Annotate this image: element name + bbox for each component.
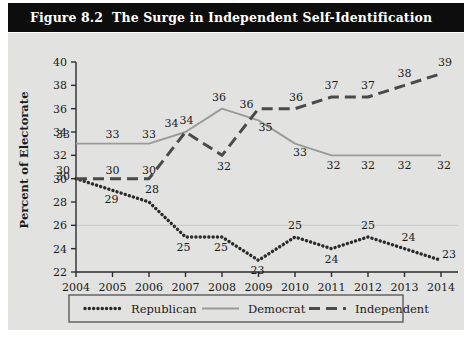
data-point-label: 33 (56, 128, 70, 141)
data-point-label: 36 (212, 91, 226, 104)
data-point-label: 39 (438, 56, 452, 69)
x-tick-label: 2011 (318, 281, 346, 294)
data-point-label: 28 (145, 183, 159, 196)
data-point-label: 25 (177, 241, 191, 254)
y-tick-label: 22 (53, 266, 67, 279)
y-tick-label: 26 (53, 219, 67, 232)
x-tick-label: 2004 (62, 281, 90, 294)
data-point-label: 36 (240, 98, 254, 111)
y-tick-label: 38 (53, 79, 67, 92)
data-point-label: 32 (361, 159, 375, 172)
y-tick-label: 40 (53, 56, 67, 69)
data-point-label: 37 (361, 79, 375, 92)
figure-title: Figure 8.2The Surge in Independent Self-… (30, 10, 432, 25)
figure-title-bar: Figure 8.2The Surge in Independent Self-… (8, 3, 464, 32)
data-point-label: 38 (398, 67, 412, 80)
x-tick-label: 2007 (172, 281, 200, 294)
y-tick-label: 32 (53, 149, 67, 162)
data-point-label: 23 (442, 248, 456, 261)
data-point-label: 25 (288, 219, 302, 232)
x-tick-label: 2008 (208, 281, 236, 294)
data-point-label: 35 (259, 121, 273, 134)
legend-label-democrat: Democrat (248, 302, 306, 316)
data-point-label: 37 (325, 79, 339, 92)
data-point-label: 32 (327, 159, 341, 172)
x-tick-label: 2010 (281, 281, 309, 294)
y-tick-label: 24 (53, 243, 67, 256)
data-point-label: 23 (251, 264, 265, 277)
y-tick-label: 28 (53, 196, 67, 209)
data-point-label: 25 (361, 219, 375, 232)
data-point-label: 29 (105, 193, 119, 206)
data-point-label: 34 (165, 117, 179, 130)
data-point-label: 33 (142, 128, 156, 141)
chart-panel: Percent of Electorate 222426283032343638… (8, 33, 464, 330)
data-point-label: 32 (217, 160, 231, 173)
series-group (76, 74, 441, 261)
y-tick-label: 36 (53, 103, 67, 116)
line-chart-plot: 22242628303234363840 2004200520062007200… (8, 33, 464, 330)
data-point-label: 32 (398, 159, 412, 172)
x-tick-label: 2009 (245, 281, 273, 294)
figure-number: Figure 8.2 (30, 10, 103, 25)
data-point-label: 33 (293, 146, 307, 159)
x-tick-label: 2005 (99, 281, 127, 294)
data-point-label: 33 (106, 128, 120, 141)
x-tick-label: 2013 (391, 281, 419, 294)
data-point-label: 36 (289, 91, 303, 104)
x-tick-label: 2012 (354, 281, 382, 294)
x-tick-label: 2006 (135, 281, 163, 294)
legend-label-republican: Republican (131, 302, 197, 316)
x-tick-label: 2014 (427, 281, 455, 294)
data-point-label: 30 (142, 164, 156, 177)
series-line-republican (76, 179, 441, 261)
figure-container: Figure 8.2The Surge in Independent Self-… (0, 0, 474, 344)
data-point-label: 30 (56, 164, 70, 177)
data-point-label: 34 (180, 114, 194, 127)
legend-label-independent: Independent (355, 302, 429, 316)
data-point-label: 30 (106, 164, 120, 177)
data-point-label: 25 (214, 241, 228, 254)
figure-title-text: The Surge in Independent Self-Identifica… (112, 10, 432, 25)
data-point-label: 24 (402, 231, 416, 244)
chart-legend: RepublicanDemocratIndependent (69, 295, 429, 322)
data-point-label: 24 (325, 253, 339, 266)
data-point-label: 32 (437, 159, 451, 172)
